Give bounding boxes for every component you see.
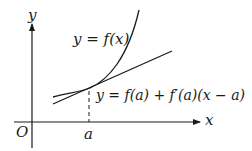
point-a-label: a bbox=[84, 127, 93, 142]
tangent-diagram: y x O a y = f(x) y = f(a) + f′(a)(x − a) bbox=[0, 0, 252, 151]
curve-label: y = f(x) bbox=[73, 32, 129, 47]
tangent-label: y = f(a) + f′(a)(x − a) bbox=[96, 88, 245, 102]
y-axis-label: y bbox=[28, 8, 36, 23]
curve-f bbox=[53, 10, 139, 97]
diagram-graphics bbox=[0, 0, 252, 151]
x-axis-label: x bbox=[205, 113, 213, 128]
origin-label: O bbox=[16, 125, 28, 140]
